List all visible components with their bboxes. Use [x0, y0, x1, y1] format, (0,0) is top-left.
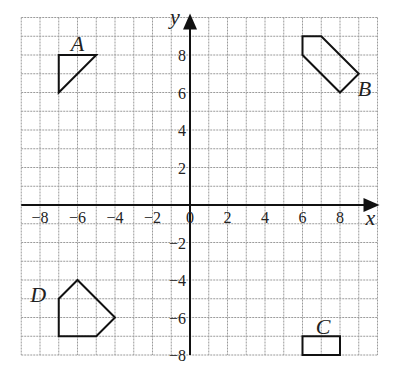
y-tick-label: −4: [169, 272, 186, 289]
grid-lines: [21, 18, 377, 356]
shapes: ABCD: [29, 31, 371, 355]
shape-outline: [59, 280, 115, 336]
shape-label: B: [358, 76, 371, 101]
shape-b: B: [303, 36, 372, 101]
x-tick-label: 0: [186, 209, 194, 226]
y-tick-label: 6: [178, 85, 186, 102]
x-tick-label: −2: [144, 209, 161, 226]
y-tick-label: 8: [178, 47, 186, 64]
y-tick-label: −2: [169, 235, 186, 252]
y-tick-label: −6: [169, 310, 186, 327]
grid-canvas: xy −8−6−4−2024688642−2−4−6−8 ABCD: [0, 0, 398, 379]
x-tick-label: 6: [299, 209, 307, 226]
shape-a: A: [59, 31, 97, 93]
y-tick-label: 2: [178, 160, 186, 177]
shape-label: D: [29, 282, 46, 307]
y-tick-label: −8: [169, 347, 186, 364]
shape-label: C: [316, 314, 331, 339]
x-tick-label: −4: [106, 209, 123, 226]
x-tick-label: −8: [31, 209, 48, 226]
axes: xy: [21, 4, 379, 356]
x-tick-label: 8: [336, 209, 344, 226]
y-tick-label: 4: [178, 122, 186, 139]
shape-label: A: [69, 31, 85, 56]
y-axis-label: y: [168, 4, 180, 29]
x-tick-label: −6: [69, 209, 86, 226]
shape-d: D: [29, 280, 115, 336]
shape-outline: [303, 36, 359, 92]
x-tick-label: 2: [224, 209, 232, 226]
y-axis-arrow-icon: [183, 14, 197, 30]
coordinate-grid-diagram: xy −8−6−4−2024688642−2−4−6−8 ABCD: [0, 0, 398, 379]
x-tick-label: 4: [261, 209, 269, 226]
x-axis-label: x: [365, 205, 376, 230]
